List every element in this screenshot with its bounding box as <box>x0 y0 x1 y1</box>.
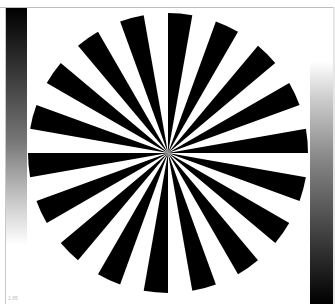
siemens-star <box>0 0 335 304</box>
corner-label: 1.65 <box>8 295 18 301</box>
star-spoke <box>168 46 275 153</box>
star-spoke <box>61 153 168 260</box>
